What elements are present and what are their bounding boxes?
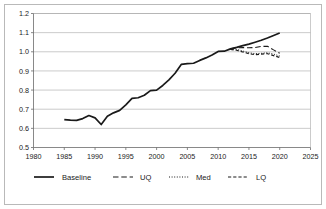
y-tick-label: 1.0 <box>19 47 29 56</box>
x-tick-label: 1990 <box>87 152 103 161</box>
line-chart: 0.50.60.70.80.91.01.11.2 198019851990199… <box>0 0 326 209</box>
y-tick-label: 0.6 <box>19 124 29 133</box>
xtick-labels-group: 1980198519901995200020052010201520202025 <box>26 152 319 161</box>
x-tick-label: 2025 <box>303 152 319 161</box>
legend-label-med: Med <box>196 173 211 182</box>
x-tick-label: 2000 <box>149 152 165 161</box>
legend-label-baseline: Baseline <box>62 173 91 182</box>
x-tick-label: 2020 <box>272 152 288 161</box>
y-tick-label: 1.1 <box>19 28 29 37</box>
chart-figure: 0.50.60.70.80.91.01.11.2 198019851990199… <box>0 0 326 209</box>
x-tick-label: 1995 <box>118 152 134 161</box>
x-tick-label: 2010 <box>210 152 226 161</box>
y-tick-label: 1.2 <box>19 9 29 18</box>
y-tick-label: 0.7 <box>19 105 29 114</box>
series-group <box>64 33 279 125</box>
x-tick-label: 2005 <box>179 152 195 161</box>
x-tick-label: 2015 <box>241 152 257 161</box>
ytick-labels-group: 0.50.60.70.80.91.01.11.2 <box>19 9 29 152</box>
legend-label-lq: LQ <box>256 173 266 182</box>
legend-group: BaselineUQMedLQ <box>34 173 266 182</box>
y-tick-label: 0.8 <box>19 86 29 95</box>
axes-group <box>31 14 311 151</box>
series-baseline <box>64 33 279 125</box>
x-tick-label: 1980 <box>26 152 42 161</box>
gridlines-group <box>34 14 311 129</box>
legend-label-uq: UQ <box>140 173 151 182</box>
y-tick-label: 0.9 <box>19 67 29 76</box>
x-tick-label: 1985 <box>56 152 72 161</box>
